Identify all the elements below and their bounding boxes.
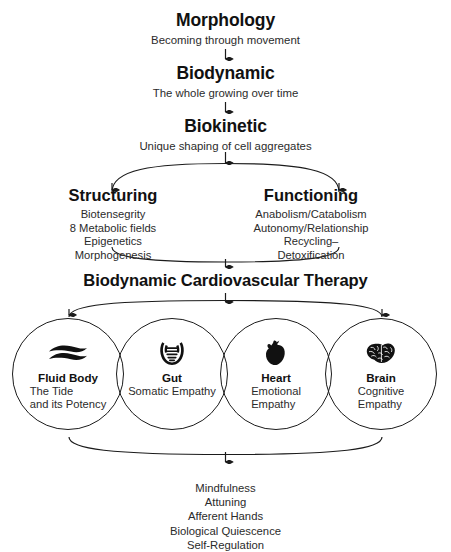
circle-brain-label: Brain: [366, 371, 396, 385]
branch-functioning: Functioning Anabolism/Catabolism Autonom…: [222, 186, 400, 262]
circle-fluid-body-description-line: and its Potency: [30, 398, 107, 411]
circle-brain-description: Cognitive Empathy: [358, 385, 405, 411]
arc-therapy-to-circles: [69, 301, 382, 318]
circle-brain-description-line: Empathy: [358, 398, 405, 411]
circle-heart-label: Heart: [261, 371, 291, 385]
circle-gut-content: Gut Somatic Empathy: [116, 318, 228, 430]
biodynamic-cardiovascular-therapy-diagram: Morphology Becoming through movement Bio…: [0, 0, 451, 552]
node-biokinetic: Biokinetic Unique shaping of cell aggreg…: [0, 116, 451, 154]
practice-item: Attuning: [0, 495, 451, 509]
circle-fluid-body-description: The Tide and its Potency: [30, 385, 107, 411]
branch-structuring-item: Epigenetics: [38, 235, 188, 249]
branch-structuring-list: Biotensegrity 8 Metabolic fields Epigene…: [38, 208, 188, 262]
circle-gut-description: Somatic Empathy: [128, 385, 216, 398]
branch-structuring-item: Morphogenesis: [38, 249, 188, 263]
circle-brain-description-line: Cognitive: [358, 385, 405, 398]
node-biokinetic-title: Biokinetic: [0, 116, 451, 136]
node-biodynamic-title: Biodynamic: [0, 63, 451, 83]
node-therapy-title: Biodynamic Cardiovascular Therapy: [0, 271, 451, 291]
node-therapy: Biodynamic Cardiovascular Therapy: [0, 271, 451, 291]
circle-heart-description-line: Emotional: [251, 385, 301, 398]
circle-gut-description-line: Somatic Empathy: [128, 385, 216, 398]
heart-icon: [265, 340, 287, 366]
circle-fluid-body-label: Fluid Body: [38, 371, 98, 385]
arc-circles-to-practices: [69, 437, 382, 455]
brain-icon: [366, 340, 396, 366]
branch-structuring-item: Biotensegrity: [38, 208, 188, 222]
circle-heart-description-line: Empathy: [251, 398, 301, 411]
practice-item: Mindfulness: [0, 481, 451, 495]
branch-structuring-item: 8 Metabolic fields: [38, 222, 188, 236]
branch-functioning-item: Recycling–: [222, 235, 400, 249]
branch-structuring-title: Structuring: [38, 186, 188, 205]
practice-item: Biological Quiescence: [0, 524, 451, 538]
branch-functioning-list: Anabolism/Catabolism Autonomy/Relationsh…: [222, 208, 400, 262]
circle-fluid-body-description-line: The Tide: [30, 385, 107, 398]
node-morphology: Morphology Becoming through movement: [0, 10, 451, 48]
branch-functioning-item: Detoxification: [222, 249, 400, 263]
circle-brain-content: Brain Cognitive Empathy: [325, 318, 437, 430]
circle-heart-description: Emotional Empathy: [251, 385, 301, 411]
node-morphology-title: Morphology: [0, 10, 451, 30]
circle-heart-content: Heart Emotional Empathy: [220, 318, 332, 430]
branch-functioning-item: Anabolism/Catabolism: [222, 208, 400, 222]
branch-structuring: Structuring Biotensegrity 8 Metabolic fi…: [38, 186, 188, 262]
practice-item: Afferent Hands: [0, 509, 451, 523]
node-biodynamic-subtitle: The whole growing over time: [0, 86, 451, 101]
practice-item: Self-Regulation: [0, 538, 451, 552]
circle-gut-label: Gut: [162, 371, 182, 385]
circle-fluid-body-content: Fluid Body The Tide and its Potency: [12, 318, 124, 430]
node-morphology-subtitle: Becoming through movement: [0, 33, 451, 48]
node-biokinetic-subtitle: Unique shaping of cell aggregates: [0, 139, 451, 154]
wave-icon: [47, 340, 89, 366]
branch-functioning-item: Autonomy/Relationship: [222, 222, 400, 236]
circle-row: Fluid Body The Tide and its Potency: [0, 318, 451, 436]
node-biodynamic: Biodynamic The whole growing over time: [0, 63, 451, 101]
intestine-icon: [159, 340, 185, 366]
branch-functioning-title: Functioning: [222, 186, 400, 205]
practices-list: Mindfulness Attuning Afferent Hands Biol…: [0, 481, 451, 552]
